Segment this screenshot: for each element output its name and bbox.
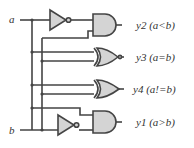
not-gate-b — [58, 115, 74, 135]
not-gate-a — [50, 10, 66, 30]
xor-gate-y4-back — [94, 80, 98, 98]
wire-a-to-y1 — [32, 108, 93, 115]
output-label-y2: y2 (a<b) — [136, 19, 175, 31]
input-label-b: b — [9, 124, 15, 136]
xnor-gate-y3 — [97, 48, 118, 66]
xor-gate-y4 — [97, 80, 119, 98]
inverter-bubble-icon — [66, 18, 71, 23]
xnor-gate-y3-back — [94, 48, 98, 66]
and-gate-y2 — [93, 14, 116, 36]
input-label-a: a — [9, 13, 15, 25]
output-label-y1: y1 (a>b) — [136, 116, 175, 128]
wire-b-to-y2 — [42, 31, 93, 38]
output-label-y4: y4 (a!=b) — [133, 83, 176, 95]
and-gate-y1 — [93, 111, 116, 133]
xnor-bubble-icon — [118, 55, 121, 58]
output-label-y3: y3 (a=b) — [136, 51, 175, 63]
inverter-bubble-icon — [74, 123, 79, 128]
